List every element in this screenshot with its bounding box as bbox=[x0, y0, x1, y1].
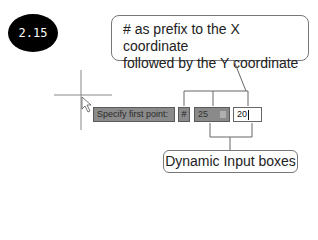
crosshair-cursor-icon bbox=[50, 68, 120, 134]
dynamic-input-prompt: Specify first point: bbox=[93, 107, 175, 122]
y-coordinate-field[interactable]: 20 bbox=[233, 107, 262, 122]
y-coordinate-value: 20 bbox=[237, 109, 247, 119]
absolute-prefix-field[interactable]: # bbox=[178, 107, 190, 122]
text-caret bbox=[248, 110, 249, 120]
arrow-pointer-icon bbox=[82, 97, 91, 112]
x-coordinate-value: 25 bbox=[198, 109, 208, 119]
lock-spinner-icon bbox=[220, 111, 226, 118]
x-coordinate-field[interactable]: 25 bbox=[194, 107, 230, 122]
callout-dynamic-input-boxes: Dynamic Input boxes bbox=[163, 150, 298, 173]
